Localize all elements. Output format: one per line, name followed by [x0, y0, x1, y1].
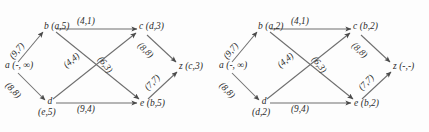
- node-d-name: d: [262, 96, 267, 106]
- node-d-name: d: [47, 96, 52, 106]
- node-z-name: z: [393, 61, 397, 71]
- node-z[interactable]: z(c,3): [179, 62, 203, 72]
- node-c-name: c: [139, 21, 143, 31]
- edge-a-d: [232, 73, 259, 100]
- graph-left: a(-, ∞) b(a,5) d(e,5) c(d,3) e(b,5) z(c,…: [0, 0, 215, 132]
- node-e-name: e: [140, 98, 144, 108]
- node-z[interactable]: z(-,-): [393, 62, 414, 72]
- node-b-name: b: [44, 21, 49, 31]
- edge-label-b-c: (4,1): [77, 17, 95, 26]
- edge-a-d: [18, 73, 45, 100]
- node-b[interactable]: b(a,2): [258, 22, 283, 32]
- node-a-name: a: [219, 60, 224, 70]
- node-b-pair: (a,5): [51, 21, 69, 31]
- node-c[interactable]: c(d,3): [139, 22, 164, 32]
- node-a[interactable]: a(-, ∞): [219, 61, 247, 71]
- node-d-pair: (e,5): [38, 108, 56, 118]
- figure-canvas: a(-, ∞) b(a,5) d(e,5) c(d,3) e(b,5) z(c,…: [0, 0, 429, 132]
- edge-label-d-e: (9,4): [291, 105, 309, 114]
- node-a-pair: (-, ∞): [226, 60, 247, 70]
- graph-right: a(-, ∞) b(a,2) d(d,2) c(b,2) e(b,2) z(-,…: [214, 0, 429, 132]
- node-d-pair: (d,2): [252, 108, 270, 118]
- node-d[interactable]: d(e,5): [44, 97, 56, 117]
- node-b-pair: (a,2): [265, 21, 283, 31]
- edge-label-b-c: (4,1): [291, 17, 309, 26]
- node-e-pair: (b,5): [147, 98, 165, 108]
- node-b-name: b: [258, 21, 263, 31]
- node-a-pair: (-, ∞): [12, 60, 33, 70]
- node-e-pair: (b,2): [361, 98, 379, 108]
- node-z-name: z: [179, 61, 183, 71]
- node-e-name: e: [354, 98, 358, 108]
- node-e[interactable]: e(b,5): [140, 99, 165, 109]
- node-e[interactable]: e(b,2): [354, 99, 379, 109]
- node-c-pair: (d,3): [146, 21, 164, 31]
- node-z-pair: (-,-): [399, 61, 414, 71]
- node-z-pair: (c,3): [185, 61, 203, 71]
- node-b[interactable]: b(a,5): [44, 22, 69, 32]
- node-c[interactable]: c(b,2): [353, 22, 378, 32]
- node-c-name: c: [353, 21, 357, 31]
- node-c-pair: (b,2): [360, 21, 378, 31]
- node-d[interactable]: d(d,2): [258, 97, 270, 117]
- node-a[interactable]: a(-, ∞): [5, 61, 33, 71]
- node-a-name: a: [5, 60, 10, 70]
- edge-label-d-e: (9,4): [77, 105, 95, 114]
